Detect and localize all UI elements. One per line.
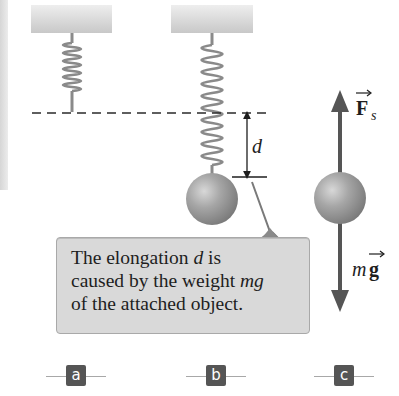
force-down-arrowhead	[331, 290, 349, 312]
force-weight-label: m g	[352, 251, 384, 281]
panel-label-b: b	[186, 365, 246, 387]
callout-line-2: caused by the weight mg	[71, 269, 299, 292]
spring-a	[63, 33, 81, 112]
physics-diagram: d F s m g	[0, 0, 399, 396]
ball-b	[186, 173, 238, 225]
force-up-arrowhead	[331, 90, 349, 112]
ball-c	[314, 172, 366, 224]
callout-line-3: of the attached object.	[71, 292, 299, 315]
spring-b	[202, 33, 223, 176]
free-body-diagram: F s m g	[314, 90, 384, 312]
callout-box: The elongation d is caused by the weight…	[56, 237, 310, 334]
svg-text:m: m	[352, 258, 366, 280]
panel-label-a: a	[46, 365, 106, 387]
force-spring-label: F s	[356, 90, 377, 123]
svg-text:s: s	[371, 108, 377, 123]
svg-text:F: F	[356, 97, 368, 119]
panel-label-c: c	[314, 365, 374, 387]
callout-pointer	[252, 182, 278, 238]
callout-line-1: The elongation d is	[71, 246, 299, 269]
svg-text:d: d	[252, 135, 263, 157]
svg-text:g: g	[369, 258, 379, 281]
dimension-d: d	[232, 115, 267, 177]
